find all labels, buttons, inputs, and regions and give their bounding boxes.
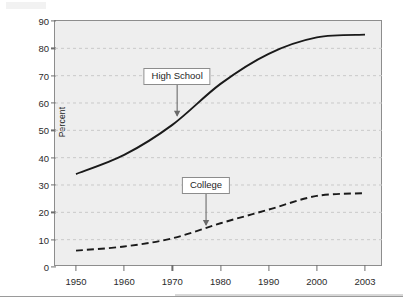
y-tick-label: 20 (25, 207, 49, 218)
scan-artifact (6, 2, 46, 9)
plot-canvas (55, 21, 383, 267)
x-tick-label: 1950 (65, 276, 86, 287)
y-tick-label: 30 (25, 180, 49, 191)
x-tick-label: 1980 (210, 276, 231, 287)
x-tick-label: 2000 (306, 276, 327, 287)
y-tick-label: 80 (25, 43, 49, 54)
annotation-arrow-head (174, 111, 180, 117)
series-line-college (76, 193, 365, 250)
x-tick-label: 1960 (114, 276, 135, 287)
y-tick-label: 10 (25, 234, 49, 245)
annotation-label-college: College (182, 177, 230, 194)
series-line-high-school (76, 35, 365, 174)
y-tick-label: 60 (25, 98, 49, 109)
x-tick-label: 2003 (354, 276, 375, 287)
y-tick-label: 0 (25, 262, 49, 273)
y-tick-label: 70 (25, 70, 49, 81)
y-tick-label: 40 (25, 152, 49, 163)
annotation-arrow-head (203, 220, 209, 226)
annotation-label-high-school: High School (144, 68, 211, 85)
gridlines (55, 48, 383, 239)
series-lines (76, 35, 365, 251)
x-tick-label: 1990 (258, 276, 279, 287)
page-bottom-rule (0, 296, 403, 297)
chart-figure: Percent 0102030405060708090 195019601970… (0, 0, 403, 306)
annotation-arrows (174, 83, 209, 226)
x-tick-label: 1970 (162, 276, 183, 287)
plot-area: Percent 0102030405060708090 195019601970… (54, 20, 382, 266)
y-tick-label: 90 (25, 16, 49, 27)
y-tick-label: 50 (25, 125, 49, 136)
